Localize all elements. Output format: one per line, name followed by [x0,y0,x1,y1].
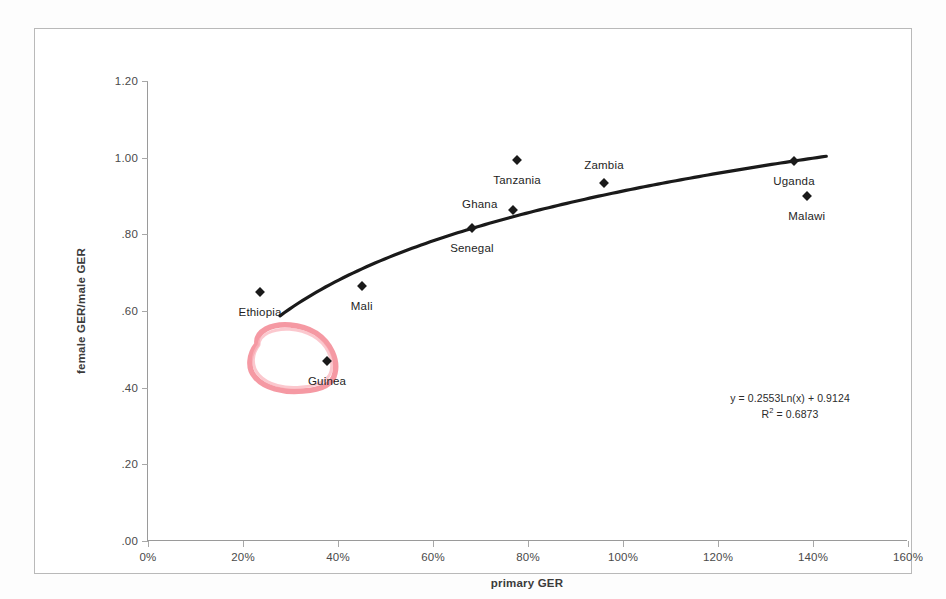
data-point-marker [512,155,522,165]
y-axis-tick-label: 1.00 [90,152,138,164]
data-point-marker [357,281,367,291]
figure-frame: female GER/male GER primary GER 1.201.00… [34,28,912,574]
y-axis-tick [142,464,148,465]
x-axis-tick [813,541,814,547]
x-axis-tick [908,541,909,547]
data-point-label: Tanzania [493,174,541,186]
x-axis-tick-label: 120% [688,551,748,563]
y-axis-tick-label: .00 [90,535,138,547]
y-axis-tick [142,234,148,235]
data-point-label: Malawi [788,210,825,222]
data-point-marker [508,205,518,215]
r-squared-value: = 0.6873 [773,408,818,420]
x-axis-tick-label: 40% [308,551,368,563]
plot-area: 1.201.00.80.60.40.20.000%20%40%60%80%100… [147,81,907,541]
y-axis-title: female GER/male GER [75,248,87,374]
data-point-label: Ethiopia [239,306,282,318]
data-point-label: Zambia [584,159,624,171]
data-point-label: Ghana [462,198,498,210]
data-point-marker [255,287,265,297]
y-axis-tick-label: 1.20 [90,75,138,87]
y-axis-tick [142,158,148,159]
y-axis-tick-label: .20 [90,458,138,470]
data-point-label: Mali [351,300,373,312]
page-canvas: female GER/male GER primary GER 1.201.00… [0,0,946,599]
y-axis-tick [142,81,148,82]
x-axis-tick [718,541,719,547]
x-axis-tick-label: 20% [213,551,273,563]
trendline-equation-annotation: y = 0.2553Ln(x) + 0.9124 R2 = 0.6873 [675,391,905,422]
x-axis-tick [243,541,244,547]
x-axis-tick-label: 60% [403,551,463,563]
data-point-marker [802,191,812,201]
data-point-marker [467,223,477,233]
x-axis-title: primary GER [147,577,907,589]
data-point-label: Uganda [773,175,814,187]
trendline-r-squared: R2 = 0.6873 [675,406,905,422]
x-axis-tick [623,541,624,547]
y-axis-tick-label: .40 [90,382,138,394]
x-axis-tick-label: 0% [118,551,178,563]
data-point-marker [599,178,609,188]
trendline-equation: y = 0.2553Ln(x) + 0.9124 [675,391,905,406]
data-point-label: Senegal [450,242,494,254]
x-axis-tick [528,541,529,547]
x-axis-tick-label: 80% [498,551,558,563]
y-axis-tick [142,388,148,389]
y-axis-tick-label: .60 [90,305,138,317]
x-axis-tick-label: 160% [878,551,938,563]
data-point-marker [789,156,799,166]
x-axis-tick [433,541,434,547]
y-axis-tick [142,311,148,312]
data-point-marker [322,356,332,366]
x-axis-tick-label: 140% [783,551,843,563]
x-axis-tick [148,541,149,547]
x-axis-tick [338,541,339,547]
x-axis-tick-label: 100% [593,551,653,563]
data-point-label: Guinea [308,375,346,387]
y-axis-tick-label: .80 [90,228,138,240]
